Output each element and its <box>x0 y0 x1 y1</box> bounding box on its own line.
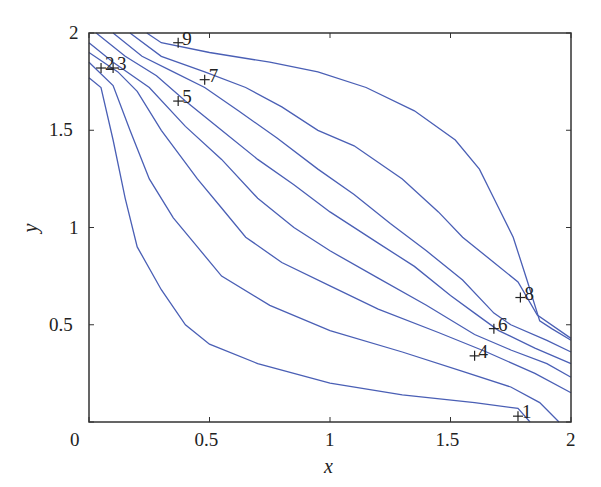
contour-level-label: 1 <box>522 402 532 421</box>
contour-line <box>130 33 571 338</box>
contour-label-markers <box>96 38 525 421</box>
contour-line <box>89 53 571 393</box>
y-tick-label: 2 <box>69 23 79 42</box>
contour-level-label: 2 <box>105 54 115 73</box>
x-tick-label: 1 <box>325 430 335 449</box>
contour-level-label: 6 <box>498 315 508 334</box>
x-tick-label: 2 <box>566 430 576 449</box>
contour-line <box>89 78 530 422</box>
x-tick-label: 0.5 <box>195 430 219 449</box>
axis-ticks <box>89 33 571 422</box>
contour-lines <box>89 33 571 422</box>
contour-line <box>89 62 559 422</box>
x-tick-label: 1.5 <box>436 430 460 449</box>
y-axis-label: y <box>20 224 40 233</box>
y-tick-label: 0.5 <box>49 315 73 334</box>
contour-line <box>113 33 571 352</box>
contour-chart <box>0 0 601 487</box>
x-tick-label: 0 <box>70 430 80 449</box>
x-axis-label: x <box>324 456 333 476</box>
contour-level-label: 4 <box>479 342 489 361</box>
y-tick-label: 1 <box>69 218 79 237</box>
contour-level-label: 3 <box>117 54 127 73</box>
contour-level-label: 5 <box>182 87 192 106</box>
contour-level-label: 8 <box>524 284 534 303</box>
plot-frame <box>89 33 571 422</box>
y-tick-label: 1.5 <box>49 120 73 139</box>
contour-level-label: 7 <box>209 66 219 85</box>
contour-level-label: 9 <box>182 29 192 48</box>
